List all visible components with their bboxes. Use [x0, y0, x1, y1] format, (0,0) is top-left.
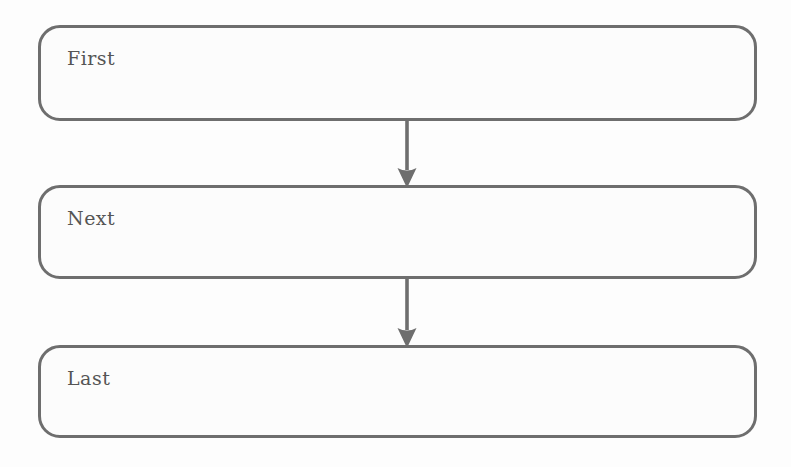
flowchart-canvas: First Next Last — [0, 0, 791, 467]
flow-arrow-next-to-last — [389, 276, 425, 348]
flow-node-first-label: First — [67, 46, 115, 70]
flow-node-last-label: Last — [67, 366, 110, 390]
flow-node-first[interactable]: First — [38, 25, 757, 121]
flow-node-next-label: Next — [67, 206, 115, 230]
flow-arrow-first-to-next — [389, 118, 425, 188]
flow-node-last[interactable]: Last — [38, 345, 757, 438]
flow-node-next[interactable]: Next — [38, 185, 757, 279]
